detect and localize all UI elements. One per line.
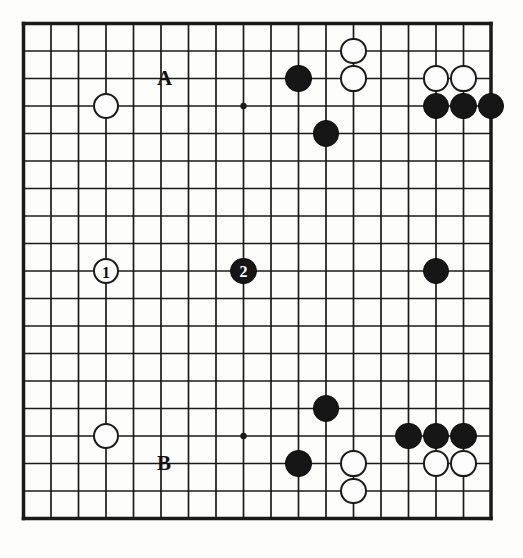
stone-white-move-1[interactable]: 1 (93, 258, 119, 284)
stone-white[interactable] (340, 450, 366, 476)
star-point (240, 103, 246, 109)
stone-white[interactable] (450, 450, 476, 476)
stone-white[interactable] (423, 450, 449, 476)
diagram-page: 12AB (0, 0, 523, 558)
stone-move-number: 1 (95, 260, 117, 281)
stone-black[interactable] (313, 120, 339, 146)
stone-white[interactable] (340, 478, 366, 504)
stone-black[interactable] (285, 450, 311, 476)
stone-black[interactable] (285, 65, 311, 91)
star-point (240, 433, 246, 439)
stone-move-number: 2 (231, 259, 255, 280)
stone-white[interactable] (340, 38, 366, 64)
stone-white[interactable] (340, 65, 366, 91)
stone-black[interactable] (313, 395, 339, 421)
stone-black[interactable] (395, 423, 421, 449)
stone-white[interactable] (423, 65, 449, 91)
stone-white[interactable] (450, 65, 476, 91)
go-board[interactable]: 12AB (0, 0, 523, 558)
stone-black-move-2[interactable]: 2 (230, 258, 256, 284)
stone-black[interactable] (450, 93, 476, 119)
stone-black[interactable] (450, 423, 476, 449)
